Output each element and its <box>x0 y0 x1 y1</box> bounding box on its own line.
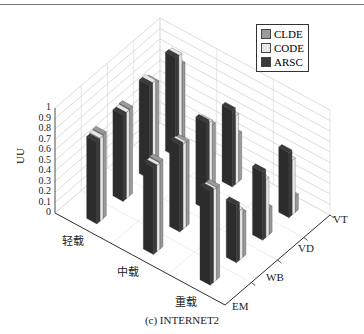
y-axis-label: UU <box>14 148 26 164</box>
y-tick-label: 0.5 <box>31 154 51 165</box>
method-label-em: EM <box>232 300 249 312</box>
legend: CLDE CODE ARSC <box>256 24 309 72</box>
y-tick-label: 0.7 <box>31 133 51 144</box>
legend-swatch-clde <box>261 29 271 39</box>
y-tick-label: 0.9 <box>31 112 51 123</box>
y-tick-label: 0.1 <box>31 196 51 207</box>
method-label-vd: VD <box>298 242 314 254</box>
legend-swatch-arsc <box>261 57 271 67</box>
figure-caption: (c) INTERNET2 <box>0 314 364 326</box>
y-tick-label: 0.4 <box>31 164 51 175</box>
legend-item-clde: CLDE <box>261 27 304 41</box>
legend-label-clde: CLDE <box>274 27 303 41</box>
y-tick-label: 0 <box>31 206 51 217</box>
y-tick-label: 1 <box>31 101 51 112</box>
y-tick-label: 0.3 <box>31 175 51 186</box>
bar3d-plot <box>0 0 364 334</box>
legend-item-code: CODE <box>261 41 304 55</box>
legend-label-code: CODE <box>274 41 304 55</box>
y-tick-label: 0.6 <box>31 143 51 154</box>
load-label-light: 轻载 <box>62 232 84 248</box>
method-label-wb: WB <box>266 271 284 283</box>
legend-swatch-code <box>261 43 271 53</box>
method-label-vt: VT <box>333 213 348 225</box>
load-label-medium: 中载 <box>117 263 139 279</box>
legend-label-arsc: ARSC <box>274 55 303 69</box>
legend-item-arsc: ARSC <box>261 55 304 69</box>
load-label-heavy: 重载 <box>175 293 197 309</box>
y-tick-label: 0.2 <box>31 185 51 196</box>
y-tick-label: 0.8 <box>31 122 51 133</box>
